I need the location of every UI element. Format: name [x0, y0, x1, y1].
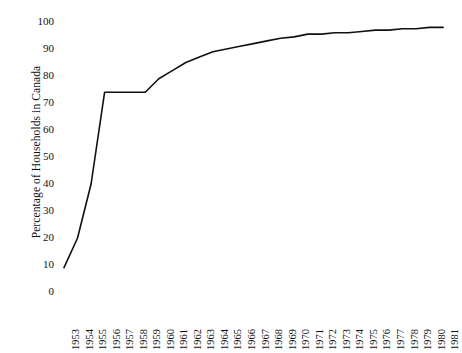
x-axis-tick-label: 1963 [204, 304, 218, 350]
x-axis-tick-label: 1965 [231, 304, 245, 350]
x-axis-tick-label: 1976 [380, 304, 394, 350]
x-axis-tick-label: 1969 [286, 304, 300, 350]
x-axis-tick-label-group: 1953195419551956195719581959196019611962… [0, 302, 455, 353]
y-axis-tick-label: 70 [26, 97, 54, 108]
x-axis-tick-label: 1962 [191, 304, 205, 350]
x-axis-tick-label: 1973 [340, 304, 354, 350]
x-axis-tick-label: 1980 [435, 304, 449, 350]
x-axis-tick-label: 1981 [448, 304, 462, 350]
x-axis-tick-label: 1964 [218, 304, 232, 350]
x-axis-tick-label: 1957 [123, 304, 137, 350]
x-axis-tick-label: 1978 [408, 304, 422, 350]
x-axis-tick-label: 1961 [177, 304, 191, 350]
y-axis-tick-label: 60 [26, 124, 54, 135]
x-axis-tick-label: 1967 [259, 304, 273, 350]
x-axis-tick-label: 1974 [353, 304, 367, 350]
line-chart-svg [56, 10, 455, 302]
x-axis-tick-label: 1970 [299, 304, 313, 350]
plot-area [56, 10, 455, 302]
x-axis-tick-label: 1977 [394, 304, 408, 350]
data-series-line [64, 27, 443, 267]
x-axis-tick-label: 1971 [313, 304, 327, 350]
x-axis-tick-label: 1958 [137, 304, 151, 350]
x-axis-tick-label: 1966 [245, 304, 259, 350]
x-axis-tick-label: 1959 [150, 304, 164, 350]
y-axis-tick-label: 50 [26, 151, 54, 162]
x-axis-tick-label: 1975 [367, 304, 381, 350]
y-axis-tick-label-group: 1009080706050403020100 [26, 0, 54, 353]
y-axis-tick-label: 30 [26, 205, 54, 216]
x-axis-tick-label: 1960 [164, 304, 178, 350]
y-axis-tick-label: 100 [26, 16, 54, 27]
y-axis-tick-label: 20 [26, 232, 54, 243]
y-axis-tick-label: 0 [26, 286, 54, 297]
y-axis-tick-label: 90 [26, 43, 54, 54]
y-axis-tick-label: 10 [26, 259, 54, 270]
x-axis-tick-label: 1972 [326, 304, 340, 350]
x-axis-tick-label: 1955 [96, 304, 110, 350]
y-axis-tick-label: 40 [26, 178, 54, 189]
y-axis-tick-label: 80 [26, 70, 54, 81]
x-axis-tick-label: 1968 [272, 304, 286, 350]
x-axis-tick-label: 1979 [421, 304, 435, 350]
x-axis-tick-label: 1956 [110, 304, 124, 350]
x-axis-tick-label: 1954 [83, 304, 97, 350]
x-axis-tick-label: 1953 [69, 304, 83, 350]
